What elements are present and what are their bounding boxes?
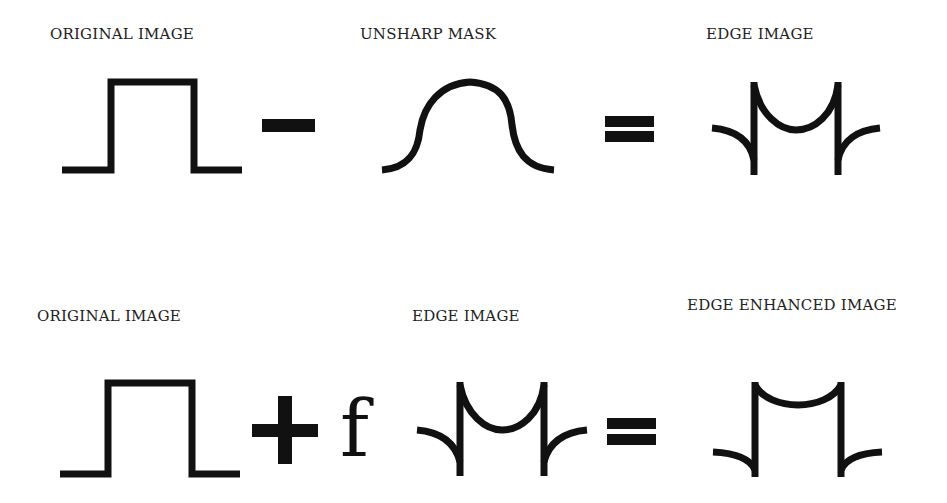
equals-operator-row2-top <box>607 418 656 429</box>
unsharp-mask-diagram <box>0 0 947 503</box>
unsharp-mask-curve <box>382 82 554 170</box>
original-pulse-row2 <box>60 383 240 474</box>
equals-operator-row1-bottom <box>605 131 654 142</box>
scaling-factor-f: f <box>340 390 369 468</box>
edge-image-row2 <box>417 382 587 476</box>
original-pulse-row1 <box>62 82 242 170</box>
plus-operator <box>252 396 318 464</box>
edge-image-row1 <box>712 82 880 175</box>
equals-operator-row2-bottom <box>607 434 656 445</box>
minus-operator <box>262 119 315 132</box>
edge-enhanced-image <box>713 382 882 477</box>
equals-operator-row1-top <box>605 116 654 127</box>
